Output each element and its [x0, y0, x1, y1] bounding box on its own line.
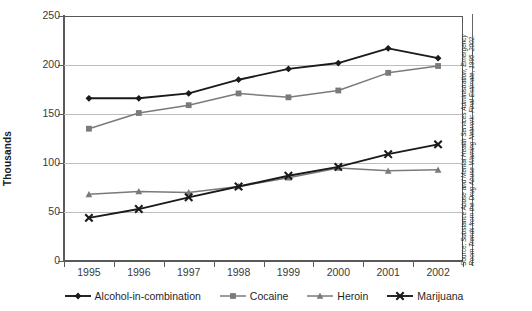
legend-label: Alcohol-in-combination — [95, 290, 201, 302]
legend-label: Cocaine — [250, 290, 289, 302]
source-prefix: Source: — [460, 242, 467, 266]
legend-label: Heroin — [337, 290, 368, 302]
source-citation: Substance Abuse and Mental Health Servic… — [460, 35, 475, 267]
gridline — [64, 212, 463, 213]
x-axis-tick-mark — [214, 262, 215, 267]
x-axis-tick-mark — [313, 262, 314, 267]
x-axis-tick-label: 2001 — [365, 266, 411, 278]
x-axis-tick-label: 1996 — [116, 266, 162, 278]
x-axis-tick-mark — [64, 262, 65, 267]
y-axis-tick-mark — [58, 65, 63, 66]
x-axis-tick-label: 1995 — [66, 266, 112, 278]
source-note: Source: Substance Abuse and Mental Healt… — [472, 14, 530, 266]
x-axis-tick-mark — [413, 262, 414, 267]
gridline — [64, 114, 463, 115]
legend-item[interactable]: Heroin — [307, 290, 368, 302]
legend-marker-cross-icon — [387, 290, 413, 302]
x-axis-tick-mark — [164, 262, 165, 267]
x-axis-tick-label: 1998 — [216, 266, 262, 278]
x-axis-tick-label: 1997 — [166, 266, 212, 278]
y-axis-tick-label: 100 — [26, 156, 60, 168]
legend-marker-triangle-icon — [307, 290, 333, 302]
y-axis-tick-mark — [58, 16, 63, 17]
y-axis-tick-label: 50 — [26, 205, 60, 217]
source-note-text: Source: Substance Abuse and Mental Healt… — [460, 16, 477, 266]
y-axis-title: Thousands — [2, 108, 18, 208]
y-axis-tick-label: 250 — [26, 9, 60, 21]
plot-border-top — [64, 16, 463, 17]
gridline — [64, 65, 463, 66]
x-axis-tick-label: 2000 — [315, 266, 361, 278]
x-axis-tick-mark — [363, 262, 364, 267]
y-axis-tick-label: 200 — [26, 58, 60, 70]
gridline — [64, 163, 463, 164]
legend-marker-diamond-icon — [65, 290, 91, 302]
y-axis-tick-mark — [58, 114, 63, 115]
legend-item[interactable]: Alcohol-in-combination — [65, 290, 201, 302]
x-axis-tick-label: 1999 — [265, 266, 311, 278]
y-axis-tick-label: 150 — [26, 107, 60, 119]
legend-marker-square-icon — [220, 290, 246, 302]
chart-legend: Alcohol-in-combinationCocaineHeroinMarij… — [64, 287, 464, 305]
x-axis-tick-label: 2002 — [415, 266, 461, 278]
legend-item[interactable]: Cocaine — [220, 290, 289, 302]
y-axis-tick-mark — [58, 163, 63, 164]
x-axis-tick-mark — [264, 262, 265, 267]
x-axis-tick-mark — [114, 262, 115, 267]
legend-item[interactable]: Marijuana — [387, 290, 463, 302]
y-axis-tick-label: 0 — [26, 254, 60, 266]
y-axis-tick-mark — [58, 261, 63, 262]
chart-figure: Thousands 050100150200250 19951996199719… — [0, 0, 532, 311]
legend-label: Marijuana — [417, 290, 463, 302]
plot-area — [64, 16, 463, 261]
y-axis-tick-mark — [58, 212, 63, 213]
